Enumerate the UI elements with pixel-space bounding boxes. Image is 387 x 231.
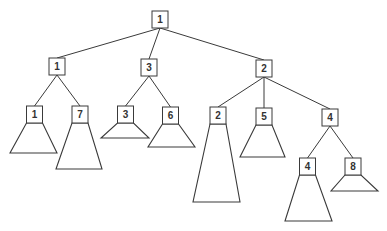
node-label: 2 bbox=[261, 63, 267, 74]
node-label: 7 bbox=[77, 109, 83, 120]
subtree-triangle bbox=[56, 123, 102, 169]
subtrees bbox=[10, 123, 378, 221]
tree-edge bbox=[330, 126, 353, 158]
subtree-triangle bbox=[101, 123, 149, 138]
subtree-triangle bbox=[193, 124, 240, 202]
node-label: 4 bbox=[327, 112, 333, 123]
tree-node: 3 bbox=[118, 106, 134, 123]
node-label: 1 bbox=[54, 61, 60, 72]
tree-edge bbox=[57, 28, 160, 58]
node-label: 4 bbox=[305, 161, 311, 172]
tree-node: 5 bbox=[256, 108, 272, 125]
tree-node: 3 bbox=[141, 59, 157, 76]
tree-node: 1 bbox=[152, 11, 168, 28]
node-label: 8 bbox=[350, 161, 356, 172]
node-label: 1 bbox=[32, 109, 38, 120]
tree-node: 8 bbox=[345, 158, 361, 175]
tree-node: 4 bbox=[300, 158, 316, 175]
subtree-triangle bbox=[285, 175, 332, 221]
tree-node: 6 bbox=[163, 107, 179, 124]
subtree-triangle bbox=[331, 175, 378, 191]
tree-edge bbox=[57, 75, 80, 106]
tree-edge bbox=[149, 28, 160, 59]
tree-edge bbox=[308, 126, 331, 158]
node-label: 5 bbox=[261, 111, 267, 122]
node-label: 2 bbox=[215, 110, 221, 121]
node-label: 3 bbox=[123, 109, 129, 120]
node-label: 1 bbox=[157, 14, 163, 25]
tree-diagram: 1117336225448 bbox=[0, 0, 387, 231]
tree-edge bbox=[264, 77, 330, 109]
subtree-triangle bbox=[148, 124, 195, 147]
tree-node: 2 bbox=[210, 107, 226, 124]
tree-node: 1 bbox=[27, 106, 43, 123]
tree-edge bbox=[218, 77, 264, 107]
tree-edge bbox=[126, 76, 150, 106]
tree-node: 7 bbox=[72, 106, 88, 123]
node-label: 6 bbox=[168, 110, 174, 121]
tree-node: 1 bbox=[49, 58, 65, 75]
tree-edge bbox=[149, 76, 171, 107]
tree-node: 2 bbox=[256, 60, 272, 77]
node-label: 3 bbox=[146, 62, 152, 73]
tree-edge bbox=[160, 28, 264, 60]
tree-edge bbox=[35, 75, 58, 106]
subtree-triangle bbox=[10, 123, 57, 153]
tree-node: 4 bbox=[322, 109, 338, 126]
subtree-triangle bbox=[240, 125, 285, 157]
